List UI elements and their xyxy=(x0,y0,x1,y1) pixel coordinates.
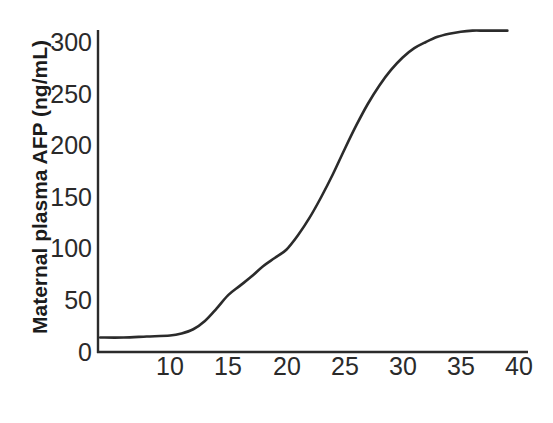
data-line-maternal-plasma-afp xyxy=(100,31,507,338)
plot-area xyxy=(0,0,553,423)
chart-figure: Maternal plasma AFP (ng/mL) 300 250 200 … xyxy=(0,0,553,423)
